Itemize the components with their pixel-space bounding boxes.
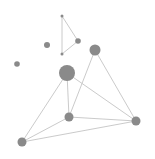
graph-node: [75, 38, 81, 44]
graph-node: [14, 61, 20, 67]
network-graph: [0, 0, 155, 159]
graph-node: [90, 45, 101, 56]
graph-edge: [69, 50, 95, 117]
graph-node: [61, 53, 64, 56]
graph-edge: [67, 73, 136, 121]
graph-edge: [95, 50, 136, 121]
graph-edge: [62, 41, 78, 54]
graph-node: [65, 113, 74, 122]
graph-edge: [62, 16, 78, 41]
graph-edge: [22, 121, 136, 142]
graph-edge: [22, 117, 69, 142]
graph-edges: [22, 16, 136, 142]
graph-node: [59, 65, 75, 81]
graph-node: [132, 117, 141, 126]
graph-node: [18, 138, 27, 147]
graph-edge: [22, 73, 67, 142]
graph-node: [44, 42, 50, 48]
graph-node: [61, 15, 64, 18]
graph-edge: [69, 117, 136, 121]
